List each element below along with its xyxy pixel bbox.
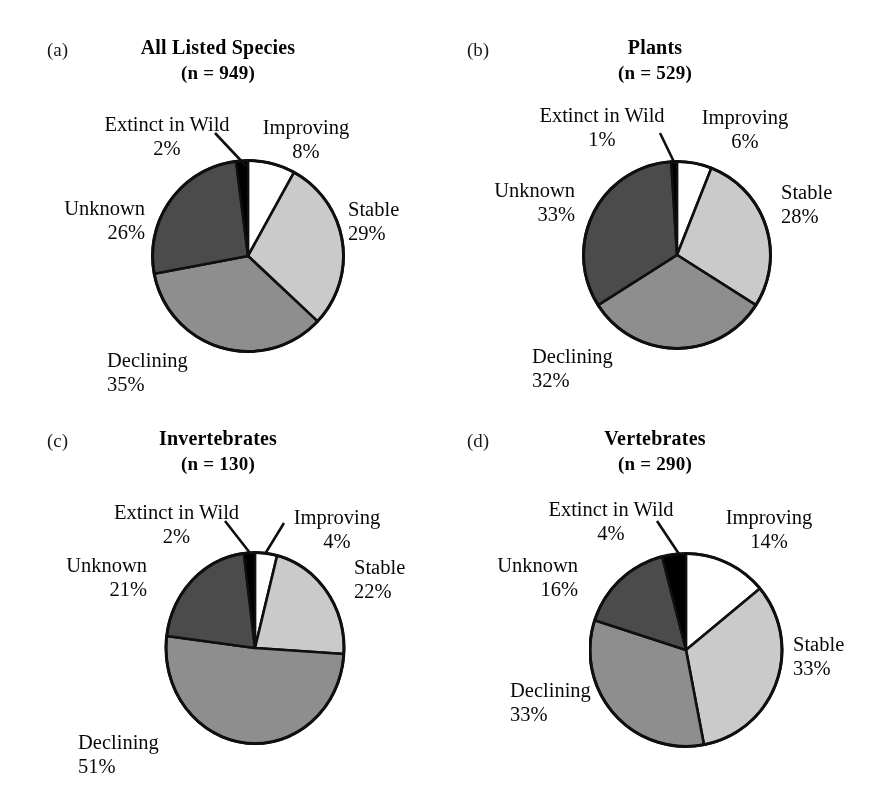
panel-d-label-declining-text: Declining [510, 679, 591, 701]
panel-c-label-unknown: Unknown 21% [0, 553, 147, 601]
panel-b-label-unknown: Unknown 33% [425, 178, 575, 226]
panel-b-label-stable-text: Stable [781, 181, 832, 203]
panel-c-label-stable-text: Stable [354, 556, 405, 578]
panel-a-label-stable-pct: 29% [348, 221, 399, 245]
panel-b-label-declining-pct: 32% [532, 368, 613, 392]
panel-c-label-stable: Stable 22% [354, 555, 405, 603]
panel-c-label-declining-text: Declining [78, 731, 159, 753]
panel-b-label-stable: Stable 28% [781, 180, 832, 228]
panel-a-label-unknown-text: Unknown [64, 197, 145, 219]
panel-b-label-stable-pct: 28% [781, 204, 832, 228]
panel-c-label-declining: Declining 51% [78, 730, 159, 778]
panel-c-label-improving-pct: 4% [272, 529, 402, 553]
panel-a-all-listed-species: (a) All Listed Species (n = 949) [0, 0, 436, 393]
panel-b-label-extinct-text: Extinct in Wild [539, 104, 664, 126]
panel-d-vertebrates: (d) Vertebrates (n = 290) [437, 393, 873, 786]
panel-a-label-extinct-text: Extinct in Wild [104, 113, 229, 135]
panel-b-label-unknown-pct: 33% [425, 202, 575, 226]
panel-d-label-stable: Stable 33% [793, 632, 844, 680]
panel-d-label-declining-pct: 33% [510, 702, 591, 726]
panel-b-label-extinct-pct: 1% [512, 127, 692, 151]
panel-a-label-improving-text: Improving [263, 116, 350, 138]
panel-b-label-declining: Declining 32% [532, 344, 613, 392]
panel-c-label-declining-pct: 51% [78, 754, 159, 778]
panel-a-label-improving: Improving 8% [241, 115, 371, 163]
panel-d-label-extinct-pct: 4% [521, 521, 701, 545]
panel-b-label-declining-text: Declining [532, 345, 613, 367]
panel-d-label-stable-text: Stable [793, 633, 844, 655]
panel-a-label-extinct-pct: 2% [83, 136, 251, 160]
panel-c-label-unknown-text: Unknown [66, 554, 147, 576]
panel-a-label-improving-pct: 8% [241, 139, 371, 163]
panel-a-label-declining: Declining 35% [107, 348, 188, 396]
panel-a-label-extinct: Extinct in Wild 2% [83, 112, 251, 160]
panel-c-label-improving-text: Improving [294, 506, 381, 528]
panel-b-label-unknown-text: Unknown [494, 179, 575, 201]
panel-d-label-improving-text: Improving [726, 506, 813, 528]
panel-c-label-extinct-text: Extinct in Wild [114, 501, 239, 523]
species-status-figure: (a) All Listed Species (n = 949) [0, 0, 873, 786]
panel-d-label-stable-pct: 33% [793, 656, 844, 680]
panel-b-label-improving: Improving 6% [680, 105, 810, 153]
panel-d-label-declining: Declining 33% [510, 678, 591, 726]
panel-a-label-declining-text: Declining [107, 349, 188, 371]
panel-d-label-improving-pct: 14% [704, 529, 834, 553]
panel-b-label-improving-pct: 6% [680, 129, 810, 153]
panel-c-invertebrates: (c) Invertebrates (n = 130) [0, 393, 436, 786]
panel-b-label-extinct: Extinct in Wild 1% [512, 103, 692, 151]
panel-c-label-extinct-pct: 2% [89, 524, 264, 548]
panel-c-label-improving: Improving 4% [272, 505, 402, 553]
panel-d-label-unknown-pct: 16% [423, 577, 578, 601]
panel-d-label-extinct: Extinct in Wild 4% [521, 497, 701, 545]
panel-d-label-improving: Improving 14% [704, 505, 834, 553]
panel-c-label-stable-pct: 22% [354, 579, 405, 603]
panel-b-plants: (b) Plants (n = 529) [437, 0, 873, 393]
panel-a-label-stable-text: Stable [348, 198, 399, 220]
panel-c-label-extinct: Extinct in Wild 2% [89, 500, 264, 548]
panel-a-label-unknown: Unknown 26% [0, 196, 145, 244]
panel-b-label-improving-text: Improving [702, 106, 789, 128]
panel-c-label-unknown-pct: 21% [0, 577, 147, 601]
panel-d-label-unknown-text: Unknown [497, 554, 578, 576]
panel-a-label-unknown-pct: 26% [0, 220, 145, 244]
panel-d-label-extinct-text: Extinct in Wild [548, 498, 673, 520]
panel-d-label-unknown: Unknown 16% [423, 553, 578, 601]
panel-a-label-stable: Stable 29% [348, 197, 399, 245]
